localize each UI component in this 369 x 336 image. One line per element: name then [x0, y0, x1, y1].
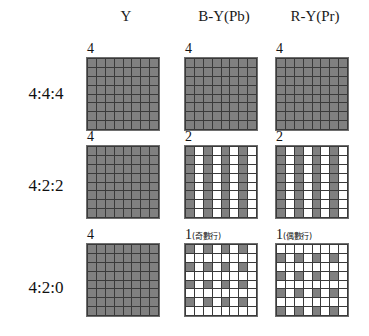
sample-cell-filled — [124, 200, 132, 208]
sample-cell-filled — [339, 112, 347, 120]
sample-cell-empty — [330, 281, 338, 289]
sample-cell-filled — [204, 59, 212, 67]
sample-cell-filled — [213, 86, 221, 94]
sample-cell-filled — [204, 174, 212, 182]
sample-cell-empty — [195, 245, 203, 253]
sample-cell-filled — [277, 165, 285, 173]
sample-cell-filled — [106, 209, 114, 217]
sample-cell-filled — [88, 77, 96, 85]
sample-cell-filled — [295, 59, 303, 67]
sample-cell-filled — [339, 59, 347, 67]
cell-420-luma: 4 — [86, 228, 166, 317]
sample-cell-empty — [286, 298, 294, 306]
sample-count-label: 4 — [86, 42, 166, 57]
sample-cell-filled — [106, 95, 114, 103]
sample-cell-filled — [141, 289, 149, 297]
sample-cell-filled — [132, 103, 140, 111]
sample-cell-filled — [88, 59, 96, 67]
sample-cell-filled — [239, 68, 247, 76]
sample-cell-filled — [150, 121, 158, 129]
sample-cell-empty — [222, 272, 230, 280]
sample-cell-filled — [97, 86, 105, 94]
sample-cell-filled — [295, 121, 303, 129]
sample-cell-empty — [195, 200, 203, 208]
sample-cell-filled — [230, 86, 238, 94]
sample-cell-filled — [88, 254, 96, 262]
sample-cell-filled — [295, 209, 303, 217]
cell-420-chroma-b: 1(奇數行) — [184, 228, 264, 317]
sample-cell-filled — [330, 103, 338, 111]
sample-cell-filled — [132, 272, 140, 280]
sample-cell-filled — [195, 59, 203, 67]
sample-cell-filled — [124, 165, 132, 173]
sample-cell-filled — [330, 59, 338, 67]
sample-cell-filled — [195, 86, 203, 94]
sample-cell-empty — [248, 307, 256, 315]
sample-cell-filled — [88, 95, 96, 103]
sample-cell-filled — [304, 68, 312, 76]
sample-cell-filled — [88, 281, 96, 289]
sample-cell-filled — [124, 254, 132, 262]
sample-cell-filled — [339, 95, 347, 103]
sample-cell-empty — [195, 165, 203, 173]
sample-cell-filled — [239, 112, 247, 120]
sample-cell-filled — [97, 209, 105, 217]
row-label-422: 4:2:2 — [10, 176, 82, 196]
sample-cell-filled — [186, 103, 194, 111]
sample-cell-empty — [248, 263, 256, 271]
sample-cell-filled — [330, 95, 338, 103]
sample-cell-filled — [222, 209, 230, 217]
sample-cell-filled — [330, 174, 338, 182]
sample-cell-empty — [286, 147, 294, 155]
sample-cell-empty — [195, 298, 203, 306]
sample-cell-filled — [106, 68, 114, 76]
sample-cell-filled — [248, 86, 256, 94]
sample-cell-filled — [204, 121, 212, 129]
sample-cell-filled — [239, 298, 247, 306]
sample-cell-filled — [230, 112, 238, 120]
sample-cell-filled — [132, 281, 140, 289]
sample-cell-filled — [88, 289, 96, 297]
sample-cell-filled — [150, 200, 158, 208]
sample-cell-empty — [230, 245, 238, 253]
sample-cell-filled — [132, 307, 140, 315]
sample-cell-filled — [88, 165, 96, 173]
sample-cell-empty — [248, 254, 256, 262]
sample-cell-empty — [195, 156, 203, 164]
sample-cell-filled — [124, 209, 132, 217]
sample-cell-filled — [330, 86, 338, 94]
sample-cell-filled — [304, 121, 312, 129]
sample-cell-filled — [195, 121, 203, 129]
sample-cell-filled — [321, 103, 329, 111]
sample-cell-filled — [115, 147, 123, 155]
sample-cell-filled — [115, 165, 123, 173]
sample-cell-filled — [88, 298, 96, 306]
sample-cell-filled — [132, 174, 140, 182]
row-label-420: 4:2:0 — [10, 278, 82, 298]
sample-cell-empty — [230, 281, 238, 289]
sample-cell-filled — [277, 209, 285, 217]
sample-cell-filled — [124, 112, 132, 120]
sample-cell-filled — [115, 183, 123, 191]
sample-cell-filled — [124, 263, 132, 271]
sample-cell-filled — [97, 191, 105, 199]
sample-cell-filled — [204, 86, 212, 94]
sample-cell-filled — [97, 307, 105, 315]
sample-cell-filled — [313, 156, 321, 164]
sample-cell-empty — [222, 307, 230, 315]
sample-cell-filled — [239, 59, 247, 67]
sample-cell-filled — [106, 245, 114, 253]
sample-cell-filled — [286, 86, 294, 94]
sample-cell-filled — [239, 77, 247, 85]
sample-cell-filled — [97, 183, 105, 191]
sample-cell-filled — [321, 68, 329, 76]
sample-cell-empty — [213, 272, 221, 280]
sample-cell-empty — [304, 200, 312, 208]
sample-cell-filled — [286, 68, 294, 76]
sample-cell-filled — [321, 77, 329, 85]
sample-cell-empty — [195, 183, 203, 191]
sample-cell-empty — [321, 289, 329, 297]
sample-cell-filled — [313, 200, 321, 208]
sample-cell-filled — [132, 245, 140, 253]
sample-cell-empty — [230, 156, 238, 164]
